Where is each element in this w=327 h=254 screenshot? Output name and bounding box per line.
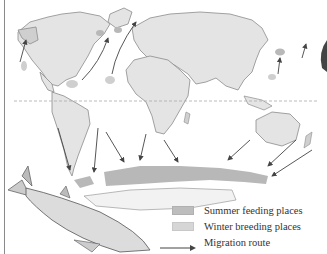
indonesia [244, 96, 272, 110]
south-america [52, 92, 90, 176]
breeding-caribbean [66, 80, 78, 88]
new-zealand [304, 132, 312, 148]
north-america [18, 12, 110, 86]
greenland [108, 8, 132, 28]
feeding-south-atlantic [74, 176, 94, 188]
breeding-cape-verde [105, 76, 115, 84]
feeding-southern-ocean [104, 166, 268, 186]
legend-item-summer: Summer feeding places [160, 204, 303, 216]
legend-label: Winter breeding places [204, 221, 301, 232]
whale-migration-map: Summer feeding places Winter breeding pl… [0, 0, 327, 254]
madagascar [184, 112, 190, 124]
globe-sliver [321, 40, 327, 72]
legend-label: Summer feeding places [204, 205, 303, 216]
feeding-north-pacific [275, 49, 285, 56]
migration-route-arrow-icon [160, 238, 196, 246]
feeding-north-atlantic-1 [96, 30, 104, 36]
australia [256, 112, 300, 146]
summer-feeding-swatch [172, 206, 194, 215]
breeding-okinawa [268, 74, 276, 80]
legend-label: Migration route [204, 237, 270, 248]
feeding-north-atlantic-2 [114, 27, 122, 33]
legend-item-route: Migration route [160, 236, 270, 248]
legend-item-winter: Winter breeding places [160, 220, 301, 232]
winter-breeding-swatch [172, 222, 194, 231]
breeding-hawaii [21, 61, 27, 71]
